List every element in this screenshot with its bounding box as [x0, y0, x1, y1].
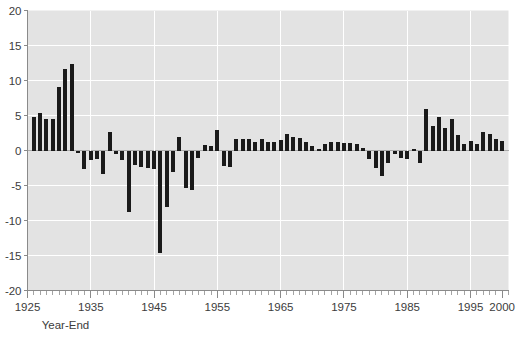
bar-1929 — [51, 119, 55, 151]
bar-1984 — [399, 151, 403, 158]
bar-1959 — [241, 139, 245, 151]
x-axis-title: Year-End — [42, 319, 90, 331]
bar-1957 — [228, 151, 232, 167]
bar-2000 — [500, 141, 504, 150]
bar-1941 — [127, 151, 131, 213]
bar-1938 — [108, 132, 112, 150]
bar-1939 — [114, 151, 118, 155]
chart-figure: 20151050-5-10-15-20192519351945195519651… — [0, 0, 522, 344]
bar-1979 — [367, 151, 371, 159]
bar-1970 — [310, 146, 314, 150]
bar-1963 — [266, 142, 270, 150]
x-tick-label-2000: 2000 — [489, 301, 515, 313]
bar-1995 — [469, 141, 473, 151]
bar-1993 — [456, 135, 460, 150]
y-tick-label--5: -5 — [11, 180, 21, 192]
bar-1951 — [190, 151, 194, 190]
bar-1999 — [494, 139, 498, 150]
x-tick-label-1975: 1975 — [331, 301, 357, 313]
bar-1998 — [488, 134, 492, 150]
bar-1942 — [133, 151, 137, 165]
bar-1991 — [443, 128, 447, 150]
y-tick-label--15: -15 — [5, 250, 22, 262]
bar-1964 — [272, 142, 276, 150]
bar-chart-svg: 20151050-5-10-15-20192519351945195519651… — [0, 0, 522, 344]
bar-1983 — [393, 151, 397, 155]
bar-1930 — [57, 87, 61, 151]
bar-1992 — [450, 119, 454, 151]
y-tick-label-5: 5 — [15, 110, 21, 122]
bar-1927 — [38, 113, 42, 150]
y-tick-label--20: -20 — [5, 285, 22, 297]
y-tick-label-10: 10 — [9, 75, 22, 87]
bar-1978 — [361, 148, 365, 150]
bar-1949 — [177, 137, 181, 150]
bar-1967 — [291, 137, 295, 150]
x-tick-label-1965: 1965 — [268, 301, 294, 313]
bar-1956 — [222, 151, 226, 166]
x-tick-label-1995: 1995 — [458, 301, 484, 313]
bar-1931 — [63, 69, 67, 151]
bar-1950 — [184, 151, 188, 189]
bar-1960 — [247, 139, 251, 150]
x-tick-label-1935: 1935 — [78, 301, 104, 313]
bar-1961 — [253, 142, 257, 150]
bar-1933 — [76, 151, 80, 154]
bar-1947 — [165, 151, 169, 208]
bar-1940 — [120, 151, 124, 161]
bar-1966 — [285, 134, 289, 151]
bar-1996 — [475, 144, 479, 151]
bar-1958 — [234, 139, 238, 151]
bar-1937 — [101, 151, 105, 175]
x-tick-label-1945: 1945 — [141, 301, 167, 313]
y-tick-label-15: 15 — [9, 40, 22, 52]
bar-1977 — [355, 144, 359, 151]
bar-1945 — [152, 151, 156, 170]
plot-area: 20151050-5-10-15-20192519351945195519651… — [5, 5, 515, 331]
y-tick-label-20: 20 — [9, 5, 22, 17]
bar-1946 — [158, 151, 162, 253]
bar-1972 — [323, 144, 327, 150]
bar-1975 — [342, 143, 346, 151]
bar-1932 — [70, 64, 74, 151]
bar-1989 — [431, 126, 435, 151]
bar-1952 — [196, 151, 200, 158]
bar-1936 — [95, 151, 99, 159]
bar-1981 — [380, 151, 384, 177]
y-tick-label-0: 0 — [15, 145, 21, 157]
bar-1974 — [336, 142, 340, 150]
bar-1943 — [139, 151, 143, 168]
bar-1948 — [171, 151, 175, 172]
bar-1962 — [260, 139, 264, 150]
bar-1954 — [209, 146, 213, 150]
bar-1968 — [298, 138, 302, 151]
bar-1997 — [481, 132, 485, 150]
bar-1976 — [348, 143, 352, 151]
bar-1987 — [418, 151, 422, 164]
bar-1965 — [279, 140, 283, 151]
x-tick-label-1985: 1985 — [394, 301, 420, 313]
bar-1980 — [374, 151, 378, 169]
bar-1926 — [32, 117, 36, 151]
y-tick-label--10: -10 — [5, 215, 22, 227]
bar-1953 — [203, 145, 207, 151]
x-tick-label-1925: 1925 — [15, 301, 41, 313]
bar-1935 — [89, 151, 93, 160]
bar-1944 — [146, 151, 150, 169]
bar-1928 — [44, 119, 48, 151]
bar-1985 — [405, 151, 409, 159]
bar-1982 — [386, 151, 390, 164]
x-tick-label-1955: 1955 — [205, 301, 231, 313]
bar-1971 — [317, 149, 321, 150]
bar-1990 — [437, 117, 441, 151]
bar-1973 — [329, 142, 333, 150]
bar-1994 — [462, 144, 466, 150]
bar-1934 — [82, 151, 86, 169]
bar-1969 — [304, 142, 308, 150]
bar-1955 — [215, 130, 219, 150]
bar-1986 — [412, 149, 416, 150]
bar-1988 — [424, 109, 428, 150]
